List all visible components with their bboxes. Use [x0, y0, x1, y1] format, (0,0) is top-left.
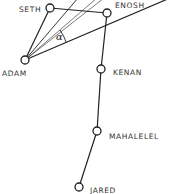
label-adam: ADAM [2, 69, 27, 78]
label-seth: SETH [19, 5, 41, 14]
edge-seth-enosh [50, 8, 107, 13]
genealogy-diagram: α SETH ENOSH ADAM KENAN MAHALELEL JARED [0, 0, 170, 194]
node-enosh [103, 9, 111, 17]
edge-kenan-mahalelel [97, 69, 101, 131]
edge-adam-seth [25, 8, 50, 60]
edge-enosh-kenan [101, 13, 107, 69]
label-enosh: ENOSH [115, 1, 145, 10]
edge-mahalelel-jared [79, 131, 97, 187]
node-mahalelel [93, 127, 101, 135]
node-kenan [97, 65, 105, 73]
angle-symbol: α [56, 31, 63, 42]
label-jared: JARED [89, 186, 116, 194]
node-adam [21, 56, 29, 64]
label-kenan: KENAN [113, 68, 142, 77]
node-jared [75, 183, 83, 191]
label-mahalelel: MAHALELEL [109, 132, 159, 141]
node-seth [46, 4, 54, 12]
